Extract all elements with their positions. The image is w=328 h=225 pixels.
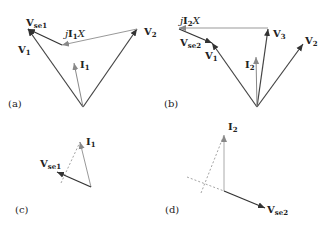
i2-vector xyxy=(256,57,257,107)
panel-label-a: (a) xyxy=(8,98,22,109)
v3-vector xyxy=(257,29,268,107)
v2-vector xyxy=(257,44,303,107)
v2-vector xyxy=(83,29,137,107)
panel-label-c: (c) xyxy=(15,204,29,215)
panel-d: I2 Vse2 (d) xyxy=(165,121,288,217)
panel-label-b: (b) xyxy=(164,98,178,109)
i1-vector xyxy=(80,142,91,187)
dashed-construction-line xyxy=(61,142,80,183)
label-v2: V2 xyxy=(304,35,318,48)
v1-vector xyxy=(212,43,257,107)
panel-label-d: (d) xyxy=(165,204,179,215)
label-v2: V2 xyxy=(143,26,157,39)
label-i2: I2 xyxy=(228,121,238,134)
phasor-diagrams: Vse1 V1 V2 I1 jI1X (a) jI2X Vse2 V1 V3 V… xyxy=(0,0,328,225)
dashed-extension-line xyxy=(187,177,224,191)
panel-b: jI2X Vse2 V1 V3 V2 I2 (b) xyxy=(164,15,318,109)
label-i1: I1 xyxy=(86,136,96,149)
label-v1: V1 xyxy=(17,44,31,57)
phasor-diagram-figure: Vse1 V1 V2 I1 jI1X (a) jI2X Vse2 V1 V3 V… xyxy=(0,0,328,225)
label-i1: I1 xyxy=(80,59,90,72)
panel-a: Vse1 V1 V2 I1 jI1X (a) xyxy=(8,17,157,109)
vse2-vector xyxy=(224,191,265,208)
label-jI2X: jI2X xyxy=(178,15,201,28)
label-v3: V3 xyxy=(272,28,286,41)
label-i2: I2 xyxy=(245,59,255,72)
vse1-vector xyxy=(57,172,91,187)
label-vse1: Vse1 xyxy=(25,17,47,30)
dashed-construction-line xyxy=(201,135,224,193)
label-vse2: Vse2 xyxy=(266,204,288,217)
label-v1: V1 xyxy=(204,50,218,63)
label-vse1: Vse1 xyxy=(39,158,61,171)
label-vse2: Vse2 xyxy=(179,37,201,50)
panel-c: I1 Vse1 (c) xyxy=(15,136,96,215)
label-jI1X: jI1X xyxy=(63,28,86,41)
